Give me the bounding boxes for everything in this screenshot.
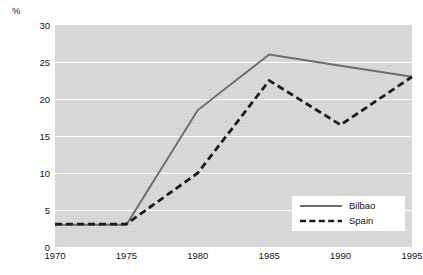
legend-label-spain: Spain (349, 216, 373, 226)
y-tick-label: 20 (4, 94, 50, 105)
y-tick-label: 15 (4, 131, 50, 142)
y-tick-label: 5 (4, 205, 50, 216)
x-tick-label: 1995 (401, 250, 422, 261)
y-tick-label: 25 (4, 57, 50, 68)
legend-label-bilbao: Bilbao (349, 201, 375, 211)
y-axis-ticks: 051015202530 (0, 25, 50, 247)
legend-item-bilbao: Bilbao (299, 199, 375, 213)
x-tick-label: 1980 (187, 250, 208, 261)
chart-container: % 051015202530 197019751980198519901995 … (0, 0, 423, 275)
y-tick-label: 30 (4, 20, 50, 31)
x-tick-label: 1990 (330, 250, 351, 261)
legend-item-spain: Spain (299, 214, 373, 228)
x-tick-label: 1970 (44, 250, 65, 261)
legend-line-dashed-icon (299, 216, 343, 226)
x-axis-ticks: 197019751980198519901995 (55, 250, 412, 270)
y-axis-unit-label: % (12, 5, 20, 16)
legend-line-solid-icon (299, 201, 343, 211)
y-tick-label: 0 (4, 242, 50, 253)
x-tick-label: 1985 (259, 250, 280, 261)
chart-legend: Bilbao Spain (292, 196, 405, 231)
x-tick-label: 1975 (116, 250, 137, 261)
y-tick-label: 10 (4, 168, 50, 179)
